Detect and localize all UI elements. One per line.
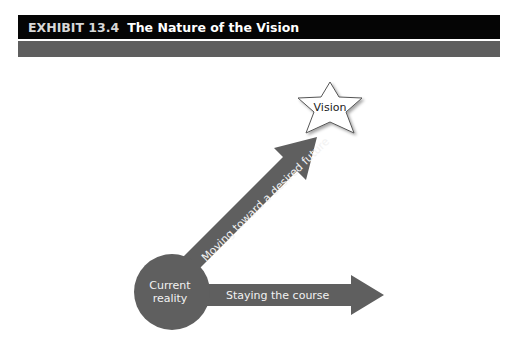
vision-label: Vision (314, 101, 347, 114)
diagonal-arrow-label: Moving toward a desired future (199, 135, 332, 264)
horizontal-arrow: Staying the course (200, 275, 384, 315)
horizontal-arrow-label: Staying the course (226, 289, 330, 302)
current-reality-label-line1: Current (149, 279, 191, 292)
current-reality-circle: Current reality (134, 254, 210, 330)
vision-diagram: Moving toward a desired future Staying t… (0, 0, 518, 349)
vision-star-icon: Vision (298, 82, 362, 133)
current-reality-label-line2: reality (153, 292, 188, 305)
diagonal-arrow: Moving toward a desired future (178, 135, 332, 274)
